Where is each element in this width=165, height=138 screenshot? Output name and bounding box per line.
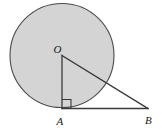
- label-point-b: B: [145, 114, 152, 126]
- label-center-o: O: [54, 43, 62, 55]
- label-point-a: A: [56, 115, 64, 127]
- geometry-figure: O A B: [0, 0, 165, 138]
- geometry-canvas: O A B: [0, 0, 165, 138]
